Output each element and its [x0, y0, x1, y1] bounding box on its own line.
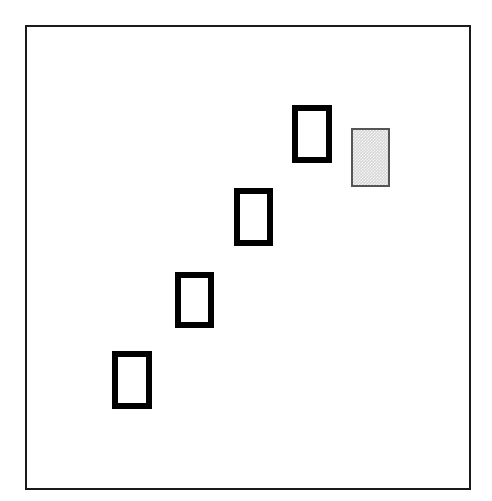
outer-frame	[25, 25, 471, 490]
step-4-shape	[292, 105, 332, 163]
step-1-shape	[112, 351, 152, 409]
step-3-shape	[234, 188, 273, 246]
figure-canvas	[0, 0, 492, 501]
highlighted-step-shape	[351, 128, 390, 187]
step-2-shape	[175, 272, 214, 328]
